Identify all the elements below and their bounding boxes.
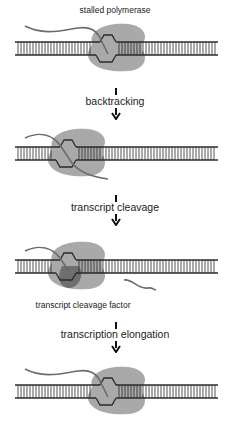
panel-transcript-cleavage [0, 238, 230, 300]
panel-elongation [0, 363, 230, 423]
cleaved-rna-fragment [124, 280, 156, 290]
panel-stalled-polymerase [0, 20, 230, 80]
down-arrow-icon [110, 341, 122, 353]
polymerase-shape [88, 367, 145, 415]
step-transcript-cleavage: transcript cleavage [0, 201, 230, 213]
step-backtracking: backtracking [0, 95, 230, 107]
dna-double-helix [15, 253, 218, 280]
polymerase-shape [88, 24, 145, 72]
label-stalled-polymerase: stalled polymerase [0, 5, 230, 15]
polymerase-shape [48, 129, 105, 177]
panel-backtracked [0, 125, 230, 185]
step-transcription-elongation: transcription elongation [0, 328, 230, 340]
dna-double-helix [15, 140, 218, 167]
down-arrow-icon [110, 108, 122, 120]
down-arrow-icon [110, 214, 122, 226]
label-cleavage-factor: transcript cleavage factor [0, 300, 198, 310]
